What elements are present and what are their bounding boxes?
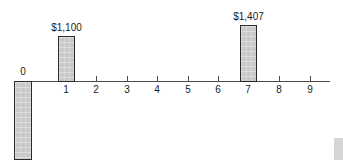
tick-label-9: 9 xyxy=(300,84,320,96)
bar-value-label-period-1: $1,100 xyxy=(42,22,92,34)
tick-label-4: 4 xyxy=(147,84,167,96)
tick-mark-9 xyxy=(310,76,311,81)
cash-flow-timeline-chart: 0 123456789 $1,100$1,407 xyxy=(0,0,343,160)
tick-mark-2 xyxy=(96,76,97,81)
tick-label-6: 6 xyxy=(208,84,228,96)
tick-label-2: 2 xyxy=(86,84,106,96)
tick-mark-8 xyxy=(279,76,280,81)
bar-value-label-period-7: $1,407 xyxy=(224,11,274,23)
tick-mark-4 xyxy=(157,76,158,81)
tick-label-3: 3 xyxy=(117,84,137,96)
cash-flow-bar-period-7 xyxy=(240,25,257,82)
tick-label-7: 7 xyxy=(238,84,258,96)
tick-mark-3 xyxy=(127,76,128,81)
tick-mark-6 xyxy=(218,76,219,81)
tick-label-5: 5 xyxy=(178,84,198,96)
tick-label-8: 8 xyxy=(269,84,289,96)
tick-label-0: 0 xyxy=(13,66,33,78)
cash-flow-bar-period-1 xyxy=(58,36,75,82)
scan-edge-artifact xyxy=(334,138,343,160)
cash-flow-bar-period-0 xyxy=(14,81,32,160)
tick-label-1: 1 xyxy=(56,84,76,96)
tick-mark-5 xyxy=(188,76,189,81)
